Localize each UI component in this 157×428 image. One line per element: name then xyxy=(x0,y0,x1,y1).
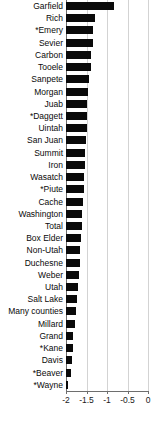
category-label: Weber xyxy=(38,269,63,281)
category-label: Juab xyxy=(45,98,63,110)
category-label: *Kane xyxy=(40,342,63,354)
bar-row: Uintah xyxy=(0,122,157,134)
bar-row: *Wayne xyxy=(0,379,157,391)
bar-row: Many counties xyxy=(0,305,157,317)
bar-row: Garfield xyxy=(0,0,157,12)
bar-row: Wasatch xyxy=(0,171,157,183)
bar xyxy=(66,320,75,328)
category-label: Cache xyxy=(38,196,63,208)
bar-chart: GarfieldRich*EmerySevierCarbonTooeleSanp… xyxy=(0,0,157,428)
bar-row: Davis xyxy=(0,354,157,366)
bar xyxy=(66,234,81,242)
category-label: *Wayne xyxy=(34,379,63,391)
bar-row: Grand xyxy=(0,330,157,342)
bar xyxy=(66,161,85,169)
category-label: Salt Lake xyxy=(28,293,63,305)
bar-row: Carbon xyxy=(0,49,157,61)
bar xyxy=(66,198,83,206)
category-label: Sanpete xyxy=(31,73,63,85)
category-label: Box Elder xyxy=(26,232,63,244)
category-label: Uintah xyxy=(38,122,63,134)
x-tick-mark xyxy=(66,391,67,394)
bar-rows: GarfieldRich*EmerySevierCarbonTooeleSanp… xyxy=(0,0,157,391)
bar xyxy=(66,210,82,218)
bar xyxy=(66,63,91,71)
bar xyxy=(66,149,85,157)
bar-row: Iron xyxy=(0,159,157,171)
bar xyxy=(66,381,68,389)
bar-row: Total xyxy=(0,220,157,232)
bar-row: *Emery xyxy=(0,24,157,36)
x-tick-label: 0 xyxy=(135,395,157,406)
bar xyxy=(66,283,78,291)
category-label: Total xyxy=(45,220,63,232)
bar xyxy=(66,14,95,22)
category-label: Utah xyxy=(45,281,63,293)
category-label: Summit xyxy=(34,147,63,159)
bar-row: *Kane xyxy=(0,342,157,354)
bar xyxy=(66,100,87,108)
x-tick-mark xyxy=(148,391,149,394)
bar-row: Sevier xyxy=(0,37,157,49)
bar-row: Morgan xyxy=(0,86,157,98)
category-label: Iron xyxy=(48,159,63,171)
category-label: Wasatch xyxy=(30,171,63,183)
category-label: San Juan xyxy=(27,134,63,146)
bar-row: Cache xyxy=(0,196,157,208)
category-label: Garfield xyxy=(33,0,63,12)
bar-row: Weber xyxy=(0,269,157,281)
bar-row: Non-Utah xyxy=(0,244,157,256)
category-label: Grand xyxy=(39,330,63,342)
bar xyxy=(66,259,80,267)
category-label: Carbon xyxy=(35,49,63,61)
bar xyxy=(66,222,82,230)
bar xyxy=(66,185,84,193)
bar-row: Millard xyxy=(0,318,157,330)
category-label: Rich xyxy=(46,12,63,24)
x-tick-mark xyxy=(87,391,88,394)
category-label: Millard xyxy=(38,318,63,330)
bar-row: Juab xyxy=(0,98,157,110)
bar-row: *Piute xyxy=(0,183,157,195)
bar xyxy=(66,344,73,352)
category-label: *Piute xyxy=(40,183,63,195)
category-label: Davis xyxy=(42,354,63,366)
bar xyxy=(66,246,80,254)
bar xyxy=(66,271,79,279)
bar xyxy=(66,136,86,144)
bar xyxy=(66,369,71,377)
bar xyxy=(66,356,72,364)
bar xyxy=(66,295,77,303)
bar xyxy=(66,124,87,132)
x-tick-mark xyxy=(107,391,108,394)
bar xyxy=(66,332,73,340)
category-label: *Emery xyxy=(35,24,63,36)
bar xyxy=(66,2,114,10)
category-label: *Daggett xyxy=(30,110,63,122)
bar xyxy=(66,39,93,47)
bar-row: Salt Lake xyxy=(0,293,157,305)
bar-row: San Juan xyxy=(0,134,157,146)
category-label: Washington xyxy=(18,208,63,220)
category-label: Many counties xyxy=(8,305,63,317)
category-label: Non-Utah xyxy=(27,244,63,256)
category-label: Morgan xyxy=(34,86,63,98)
bar xyxy=(66,88,88,96)
x-tick-mark xyxy=(128,391,129,394)
category-label: *Beaver xyxy=(33,367,63,379)
bar-row: Rich xyxy=(0,12,157,24)
bar-row: Utah xyxy=(0,281,157,293)
bar-row: Washington xyxy=(0,208,157,220)
bar-row: Sanpete xyxy=(0,73,157,85)
category-label: Sevier xyxy=(39,37,63,49)
bar xyxy=(66,75,89,83)
bar-row: Tooele xyxy=(0,61,157,73)
category-label: Tooele xyxy=(38,61,63,73)
bar-row: Duchesne xyxy=(0,257,157,269)
bar xyxy=(66,173,84,181)
bar-row: Summit xyxy=(0,147,157,159)
category-label: Duchesne xyxy=(25,257,63,269)
bar-row: *Beaver xyxy=(0,367,157,379)
bar xyxy=(66,51,91,59)
bar-row: *Daggett xyxy=(0,110,157,122)
